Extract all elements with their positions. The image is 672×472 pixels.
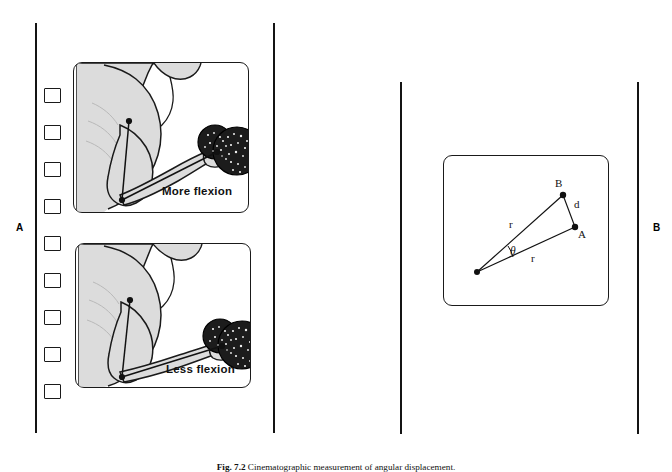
radius-to-b (477, 195, 563, 272)
segment-label-d: d (574, 198, 580, 210)
panel-label-b: B (653, 222, 660, 233)
vertex-pivot (474, 269, 480, 275)
chest-contour (153, 244, 202, 260)
vertex-label-b: B (555, 177, 562, 189)
cine-frame-more-flexion: More flexion (73, 62, 249, 213)
film-perforation (44, 125, 61, 140)
film-perforation (44, 273, 61, 288)
cine-frame-less-flexion: Less flexion (75, 243, 251, 388)
panel-label-a: A (16, 222, 23, 233)
film-perforation (44, 199, 61, 214)
angle-label-theta: θ (510, 245, 516, 257)
marker-elbow (119, 197, 125, 203)
marker-wrist (214, 149, 220, 155)
marker-shoulder (126, 118, 132, 124)
rule-right-a (273, 23, 275, 433)
figure-caption: Fig. 7.2 Cinematographic measurement of … (0, 462, 672, 472)
film-perforation (44, 310, 61, 325)
chest-contour (154, 63, 201, 79)
geometry-frame: B A d r r θ (443, 155, 609, 306)
vertex-b (560, 192, 566, 198)
frame-label-more-flexion: More flexion (162, 185, 232, 197)
film-perforation (44, 347, 61, 362)
segment-label-r-upper: r (509, 218, 513, 230)
film-perforation (44, 236, 61, 251)
rule-left-b (400, 82, 402, 434)
segment-label-r-lower: r (531, 252, 535, 264)
marker-shoulder (127, 297, 133, 303)
film-perforation (44, 88, 61, 103)
marker-elbow (119, 374, 125, 380)
rule-right-b (637, 82, 639, 434)
caption-number: Fig. 7.2 (217, 462, 246, 472)
marker-wrist (219, 343, 225, 349)
film-perforation (44, 384, 61, 399)
vertex-label-a: A (578, 228, 586, 240)
rule-left-a (35, 23, 37, 433)
caption-text: Cinematographic measurement of angular d… (248, 462, 455, 472)
radius-to-a (477, 227, 575, 272)
frame-label-less-flexion: Less flexion (166, 363, 235, 375)
film-perforation (44, 162, 61, 177)
